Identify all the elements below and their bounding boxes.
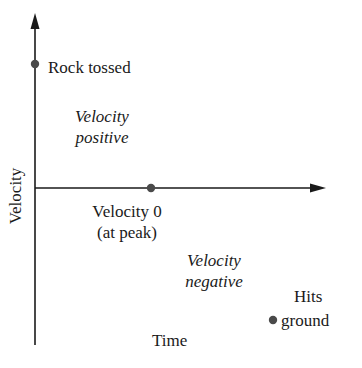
peak-label-line2: (at peak) — [82, 222, 172, 243]
region-positive-label: Velocity positive — [60, 106, 144, 148]
peak-dot — [147, 184, 155, 192]
peak-label: Velocity 0 (at peak) — [82, 201, 172, 243]
y-axis-label: Velocity — [6, 166, 26, 226]
hits-ground-label-line1: Hits — [294, 286, 322, 307]
region-positive-line1: Velocity — [60, 106, 144, 127]
x-axis-label: Time — [152, 330, 187, 351]
region-negative-line2: negative — [174, 271, 254, 292]
peak-label-line1: Velocity 0 — [82, 201, 172, 222]
rock-tossed-label: Rock tossed — [48, 57, 131, 78]
hits-ground-label-line2: ground — [281, 310, 329, 331]
rock-tossed-dot — [31, 60, 39, 68]
x-axis-arrow-icon — [310, 184, 326, 193]
region-negative-line1: Velocity — [174, 250, 254, 271]
hits-ground-dot — [269, 316, 277, 324]
y-axis-arrow-icon — [31, 13, 40, 29]
velocity-time-diagram: Velocity Rock tossed Velocity positive V… — [0, 0, 362, 368]
region-negative-label: Velocity negative — [174, 250, 254, 292]
region-positive-line2: positive — [60, 127, 144, 148]
